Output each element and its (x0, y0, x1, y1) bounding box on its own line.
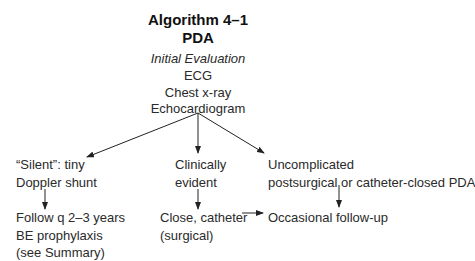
arrow-to-silent (87, 113, 198, 157)
evident-action-line1: Close, catheter (160, 209, 247, 226)
silent-action-line3: (see Summary) (16, 244, 105, 261)
silent-condition-line1: “Silent”: tiny (16, 156, 85, 173)
silent-action-line1: Follow q 2–3 years (16, 209, 125, 226)
evident-condition-line1: Clinically (175, 156, 226, 173)
uncomplicated-action-line1: Occasional follow-up (268, 209, 388, 226)
evident-condition-line2: evident (175, 174, 217, 191)
uncomplicated-condition-line1: Uncomplicated (268, 156, 354, 173)
evident-action-line2: (surgical) (160, 227, 213, 244)
uncomplicated-condition-line2: postsurgical or catheter-closed PDA (268, 174, 475, 191)
arrow-to-uncomplicated (198, 113, 264, 153)
silent-action-line2: BE prophylaxis (16, 227, 103, 244)
silent-condition-line2: Doppler shunt (16, 174, 97, 191)
